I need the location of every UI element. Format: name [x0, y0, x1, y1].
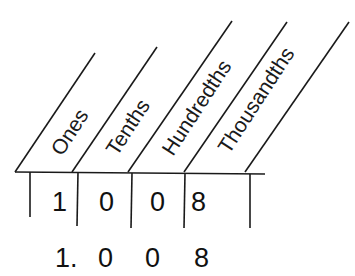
column-label-thousandths: Thousandths — [213, 43, 298, 157]
cell-digit-hundredths: 0 — [150, 187, 165, 217]
header-baseline — [15, 172, 265, 174]
vertical-divider-2 — [77, 172, 78, 226]
vertical-divider-4 — [184, 173, 185, 228]
cell-digit-tenths: 0 — [99, 187, 114, 217]
column-label-tenths: Tenths — [101, 95, 154, 159]
cell-digit-thousandths: 8 — [191, 187, 206, 217]
decimal-digit-tenths: 0 — [98, 243, 113, 273]
vertical-divider-3 — [131, 173, 132, 228]
place-value-diagram: Ones Tenths Hundredths Thousandths 1 0 0… — [0, 0, 355, 276]
cell-digit-ones: 1 — [52, 187, 67, 217]
decimal-digit-hundredths: 0 — [145, 243, 160, 273]
decimal-digit-thousandths: 8 — [194, 243, 209, 273]
decimal-whole-part: 1. — [55, 243, 78, 273]
